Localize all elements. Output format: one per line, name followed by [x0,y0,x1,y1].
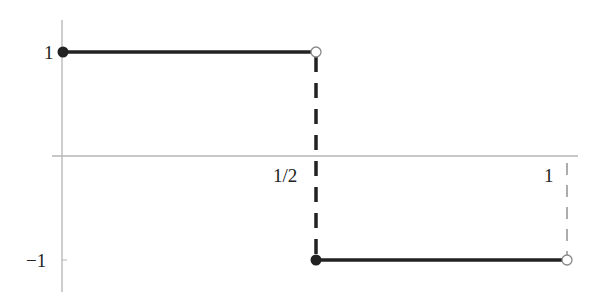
y-label-neg-one: −1 [26,250,46,271]
closed-point-start [58,47,69,58]
x-label-half: 1/2 [273,165,297,186]
open-point-half [311,47,321,57]
y-label-one: 1 [44,42,54,63]
closed-point-half [311,255,322,266]
x-label-one: 1 [544,165,554,186]
open-point-one [562,255,572,265]
step-function-plot: 1 −1 1/2 1 [0,0,604,303]
